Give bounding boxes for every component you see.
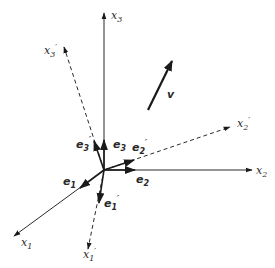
e1-prime-label: e1′ (104, 195, 120, 212)
e1-label: e1 (63, 175, 76, 190)
e3-prime-label: e3′ (76, 136, 92, 153)
e2-label: e2 (136, 173, 149, 188)
x3-axis-label: x3 (111, 9, 122, 24)
v-label: v (167, 88, 175, 101)
diagram-canvas: x3 x3′ x2 x2′ x1 x1′ e3 e3′ e2′ e2 e1 e1… (0, 0, 275, 268)
x2-prime-axis-label: x2′ (237, 115, 250, 132)
x1-axis-label: x1 (21, 236, 32, 251)
e2-prime-vector (104, 160, 134, 170)
x1-prime-axis-label: x1′ (83, 246, 96, 263)
x2-axis-label: x2 (256, 164, 267, 179)
x3-prime-axis-label: x3′ (44, 42, 57, 59)
coordinate-rotation-diagram: x3 x3′ x2 x2′ x1 x1′ e3 e3′ e2′ e2 e1 e1… (0, 0, 275, 268)
e2-prime-label: e2′ (132, 139, 148, 156)
e3-label: e3 (113, 138, 126, 153)
e3-prime-vector (94, 141, 104, 170)
v-vector (148, 61, 172, 110)
